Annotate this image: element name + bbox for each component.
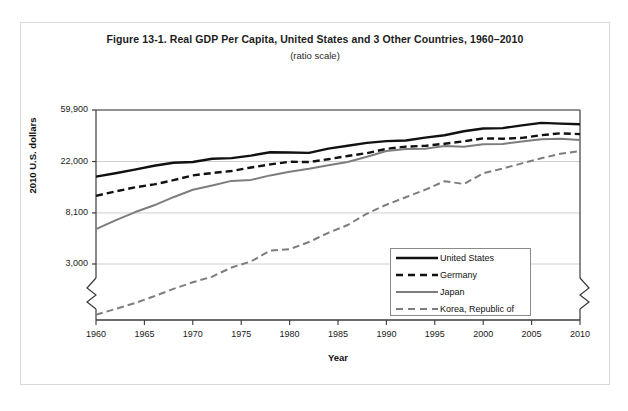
legend-item-label: Japan: [440, 287, 465, 297]
chart-plot-area: 2010 U.S. dollars Year 3,0008,10022,0005…: [0, 0, 628, 411]
gridlines-group: [96, 110, 580, 264]
x-tick-label: 1970: [173, 329, 213, 339]
x-tick-label: 1965: [124, 329, 164, 339]
legend-item: Korea, Republic of: [391, 300, 530, 317]
y-axis-break-zigzag: [87, 278, 96, 309]
x-tick-label: 2000: [463, 329, 503, 339]
series-line: [96, 123, 580, 177]
x-tick-label: 1990: [366, 329, 406, 339]
legend-line-swatch-icon: [395, 252, 439, 264]
legend-item: United States: [391, 249, 530, 266]
legend-line-swatch-icon: [395, 303, 439, 315]
legend-item: Japan: [391, 283, 530, 300]
y-tick-label: 3,000: [42, 258, 88, 268]
y-tick-label: 59,900: [42, 104, 88, 114]
y-tick-label: 8,100: [42, 207, 88, 217]
series-line: [96, 139, 580, 230]
x-tick-label: 1980: [270, 329, 310, 339]
legend-item: Germany: [391, 266, 530, 283]
x-tick-label: 1985: [318, 329, 358, 339]
legend-item-label: Korea, Republic of: [440, 304, 514, 314]
x-axis-title: Year: [96, 352, 580, 363]
legend-line-swatch-icon: [395, 286, 439, 298]
right-axis-break-zigzag: [580, 278, 589, 309]
y-tick-label: 22,000: [42, 156, 88, 166]
x-tick-label: 1960: [76, 329, 116, 339]
y-axis-title: 2010 U.S. dollars: [27, 96, 38, 216]
x-tick-label: 2010: [560, 329, 600, 339]
legend-line-swatch-icon: [395, 269, 439, 281]
chart-legend: United StatesGermanyJapanKorea, Republic…: [390, 248, 531, 316]
x-tick-label: 1995: [415, 329, 455, 339]
x-tick-label: 1975: [221, 329, 261, 339]
x-tick-label: 2005: [512, 329, 552, 339]
legend-item-label: Germany: [440, 270, 477, 280]
legend-item-label: United States: [440, 253, 494, 263]
chart-svg: [0, 0, 628, 411]
